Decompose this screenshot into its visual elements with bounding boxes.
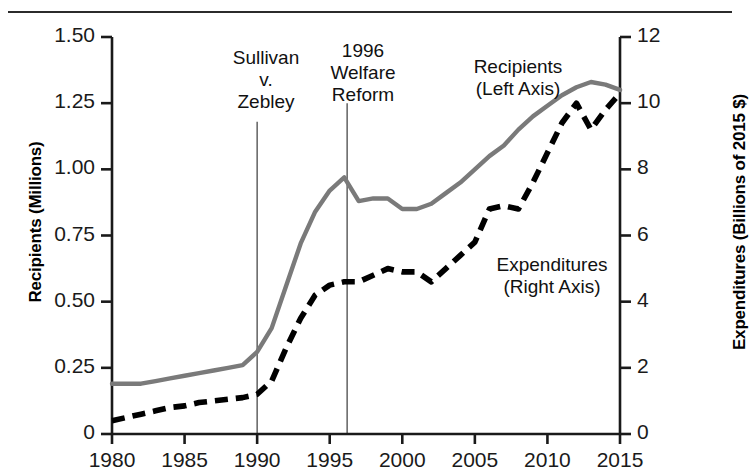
annotation-1996-welfare-reform: 1996 Welfare Reform bbox=[306, 40, 420, 106]
y-axis-right-tick-label: 8 bbox=[637, 155, 711, 179]
y-axis-right-title: Expenditures (Billions of 2015 $) bbox=[730, 12, 750, 432]
y-axis-right-tick-label: 4 bbox=[637, 288, 711, 312]
series-label-expenditures: Expenditures (Right Axis) bbox=[470, 254, 634, 298]
y-axis-left-tick-label: 0.75 bbox=[21, 222, 95, 246]
y-axis-left-tick-label: 0 bbox=[21, 420, 95, 444]
y-axis-right-tick-label: 2 bbox=[637, 354, 711, 378]
series-line-recipients bbox=[112, 82, 620, 384]
y-axis-left-tick-label: 1.00 bbox=[21, 155, 95, 179]
y-axis-left-tick-label: 0.50 bbox=[21, 288, 95, 312]
y-axis-left-tick-label: 1.25 bbox=[21, 89, 95, 113]
y-axis-right-tick-label: 10 bbox=[637, 89, 711, 113]
y-axis-left-tick-label: 0.25 bbox=[21, 354, 95, 378]
series-label-recipients: Recipients (Left Axis) bbox=[443, 56, 593, 100]
y-axis-right-tick-label: 6 bbox=[637, 222, 711, 246]
y-axis-right-tick-label: 0 bbox=[637, 420, 711, 444]
y-axis-right-tick-label: 12 bbox=[637, 23, 711, 47]
x-axis-tick-label: 2015 bbox=[575, 448, 665, 471]
y-axis-left-tick-label: 1.50 bbox=[21, 23, 95, 47]
